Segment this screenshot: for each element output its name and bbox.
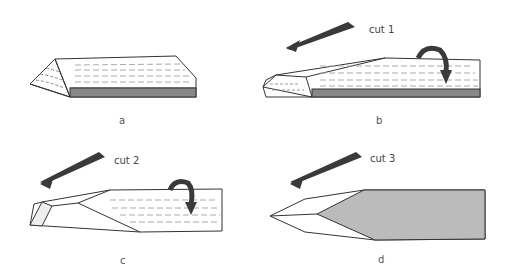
panel-a-label: a [119,115,125,126]
panel-c-label: c [120,255,126,266]
cut-2-label: cut 2 [114,155,139,166]
panel-b-label: b [376,115,382,126]
cut-1-label: cut 1 [369,24,394,35]
stick-a [30,56,196,97]
stick-d [270,190,485,240]
cut-3-label: cut 3 [370,153,395,164]
panel-d-label: d [378,254,384,265]
illustration-canvas [0,0,513,278]
